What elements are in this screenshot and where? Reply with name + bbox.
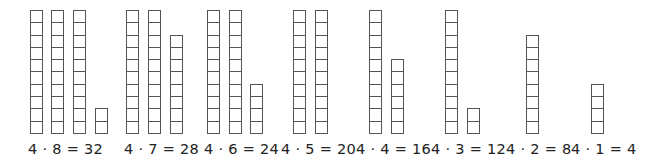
- ten-rod: [229, 10, 242, 134]
- unit-block: [52, 85, 63, 97]
- unit-block: [74, 122, 85, 134]
- unit-block: [251, 109, 262, 121]
- unit-block: [527, 85, 538, 97]
- unit-block: [31, 85, 42, 97]
- unit-block: [294, 23, 305, 35]
- unit-block: [251, 85, 262, 97]
- unit-block: [392, 60, 403, 72]
- ten-rod: [293, 10, 306, 134]
- unit-block: [527, 72, 538, 84]
- unit-block: [316, 48, 327, 60]
- unit-block: [251, 122, 262, 134]
- unit-block: [149, 48, 160, 60]
- equation-label: 4 · 6 = 24: [204, 141, 279, 157]
- unit-block: [230, 85, 241, 97]
- unit-block: [230, 122, 241, 134]
- unit-block: [316, 122, 327, 134]
- unit-block: [392, 122, 403, 134]
- equation-label: 4 · 3 = 12: [431, 141, 506, 157]
- unit-block: [230, 11, 241, 23]
- unit-block: [171, 36, 182, 48]
- unit-block: [127, 11, 138, 23]
- unit-block: [31, 48, 42, 60]
- unit-block: [31, 97, 42, 109]
- unit-block: [127, 36, 138, 48]
- ten-rod: [369, 10, 382, 134]
- unit-block: [149, 23, 160, 35]
- unit-block: [527, 97, 538, 109]
- unit-block: [446, 97, 457, 109]
- ten-rod: [445, 10, 458, 134]
- unit-block: [446, 60, 457, 72]
- unit-block: [527, 48, 538, 60]
- unit-block: [127, 72, 138, 84]
- unit-block: [149, 60, 160, 72]
- ten-rod: [30, 10, 43, 134]
- unit-block: [74, 109, 85, 121]
- unit-block: [527, 36, 538, 48]
- unit-block: [52, 36, 63, 48]
- ten-rod: [148, 10, 161, 134]
- unit-block: [370, 11, 381, 23]
- unit-block: [149, 97, 160, 109]
- unit-block: [171, 85, 182, 97]
- unit-block: [74, 60, 85, 72]
- unit-block: [527, 122, 538, 134]
- unit-block: [316, 36, 327, 48]
- unit-block: [52, 72, 63, 84]
- unit-block: [294, 72, 305, 84]
- unit-block: [52, 97, 63, 109]
- unit-block: [127, 60, 138, 72]
- unit-block: [127, 109, 138, 121]
- unit-block: [208, 11, 219, 23]
- equation-label: 4 · 1 = 4: [571, 141, 637, 157]
- unit-block: [208, 72, 219, 84]
- unit-block: [294, 48, 305, 60]
- ten-rod: [126, 10, 139, 134]
- equation-label: 4 · 8 = 32: [28, 141, 103, 157]
- unit-block: [392, 85, 403, 97]
- unit-block: [31, 60, 42, 72]
- unit-block: [74, 48, 85, 60]
- unit-block: [392, 72, 403, 84]
- unit-block: [149, 85, 160, 97]
- unit-block: [316, 97, 327, 109]
- unit-block: [208, 23, 219, 35]
- unit-block: [208, 60, 219, 72]
- unit-block: [149, 109, 160, 121]
- unit-block: [52, 11, 63, 23]
- unit-block: [74, 23, 85, 35]
- unit-block: [446, 122, 457, 134]
- unit-block: [316, 72, 327, 84]
- unit-block: [149, 122, 160, 134]
- unit-block: [316, 11, 327, 23]
- unit-column: [95, 108, 108, 134]
- unit-block: [294, 122, 305, 134]
- unit-block: [251, 97, 262, 109]
- unit-column: [591, 84, 604, 134]
- unit-block: [74, 72, 85, 84]
- unit-block: [31, 23, 42, 35]
- unit-block: [74, 97, 85, 109]
- unit-block: [370, 60, 381, 72]
- unit-block: [592, 85, 603, 97]
- unit-block: [127, 97, 138, 109]
- unit-block: [294, 97, 305, 109]
- unit-block: [446, 11, 457, 23]
- unit-block: [127, 122, 138, 134]
- unit-block: [294, 11, 305, 23]
- unit-block: [171, 48, 182, 60]
- unit-block: [31, 36, 42, 48]
- unit-column: [467, 108, 480, 134]
- unit-block: [171, 60, 182, 72]
- unit-block: [370, 23, 381, 35]
- unit-block: [208, 36, 219, 48]
- unit-block: [171, 72, 182, 84]
- unit-block: [370, 122, 381, 134]
- unit-block: [31, 122, 42, 134]
- unit-block: [316, 23, 327, 35]
- unit-block: [468, 122, 479, 134]
- unit-block: [230, 97, 241, 109]
- unit-column: [526, 35, 539, 134]
- unit-block: [592, 122, 603, 134]
